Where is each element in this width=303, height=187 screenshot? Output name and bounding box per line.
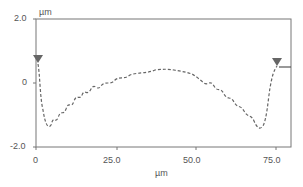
y-tick-mid: 0 xyxy=(22,77,27,87)
profile-chart xyxy=(0,0,303,187)
x-tick-50: 50.0 xyxy=(183,155,201,165)
y-tick-bottom: -2.0 xyxy=(10,141,26,151)
y-axis-unit: µm xyxy=(39,7,52,17)
profile-line xyxy=(38,64,277,128)
left-cursor-marker[interactable] xyxy=(33,55,43,63)
y-tick-top: 2.0 xyxy=(14,13,27,23)
plot-frame xyxy=(36,19,291,147)
x-tick-25: 25.0 xyxy=(103,155,121,165)
x-tick-0: 0 xyxy=(33,155,38,165)
right-cursor-marker[interactable] xyxy=(272,58,282,66)
x-axis-unit: µm xyxy=(155,168,168,178)
x-tick-75: 75.0 xyxy=(263,155,281,165)
